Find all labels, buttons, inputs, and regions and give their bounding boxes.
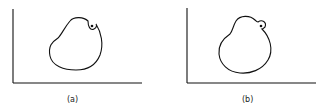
panel-b-label: (b) — [242, 95, 253, 104]
panel-a-label: (a) — [67, 95, 78, 104]
panel-b-dot — [260, 25, 263, 28]
panel-b — [187, 8, 316, 83]
panel-a-dot — [91, 25, 94, 28]
panel-a — [13, 9, 142, 83]
panel-b-closed-curve — [219, 16, 271, 73]
panel-a-closed-curve — [49, 18, 101, 70]
figure — [0, 0, 328, 106]
